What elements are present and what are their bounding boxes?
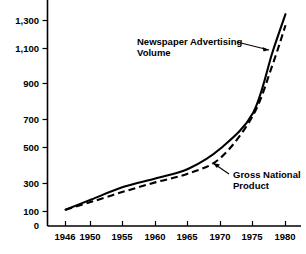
line-chart: 1,300 1,100 900 700 500 300 100 0 1946 1… — [0, 0, 306, 254]
annotation-label-gnp-line1: Gross National — [233, 169, 301, 180]
x-tick-label-1950: 1950 — [79, 231, 100, 242]
y-tick-label-100: 100 — [23, 206, 39, 217]
y-tick-label-0: 0 — [34, 220, 39, 231]
y-tick-label-300: 300 — [23, 178, 39, 189]
x-tick-label-1960: 1960 — [144, 231, 165, 242]
x-tick-label-1946: 1946 — [54, 231, 75, 242]
y-tick-label-1100: 1,100 — [15, 43, 39, 54]
y-tick-label-900: 900 — [23, 78, 39, 89]
x-tick-label-1970: 1970 — [209, 231, 230, 242]
x-tick-label-1975: 1975 — [241, 231, 263, 242]
annotation-label-newspaper-line2: Volume — [137, 47, 171, 58]
y-tick-label-700: 700 — [23, 114, 39, 125]
annotation-label-gnp-line2: Product — [233, 180, 270, 191]
x-tick-label-1955: 1955 — [111, 231, 133, 242]
chart-figure: 1,300 1,100 900 700 500 300 100 0 1946 1… — [0, 0, 306, 254]
y-tick-label-1300: 1,300 — [15, 15, 39, 26]
annotation-label-newspaper-line1: Newspaper Advertising — [137, 36, 242, 47]
x-tick-label-1965: 1965 — [176, 231, 198, 242]
x-tick-label-1980: 1980 — [274, 231, 295, 242]
y-tick-label-500: 500 — [23, 142, 39, 153]
